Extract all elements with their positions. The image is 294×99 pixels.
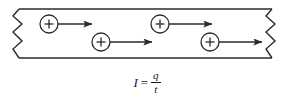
charge-carrier-3 xyxy=(151,15,212,33)
right-break-zigzag-icon xyxy=(266,9,275,58)
charge-carrier-1 xyxy=(40,15,92,33)
left-break-zigzag-icon xyxy=(13,9,22,58)
equation-numerator: q xyxy=(151,70,161,82)
equation-denominator: t xyxy=(152,83,159,95)
current-equation: I = q t xyxy=(0,66,294,99)
current-diagram-figure: I = q t xyxy=(0,0,294,99)
equation-equals-sign: = xyxy=(141,76,148,89)
charge-carrier-4 xyxy=(201,33,262,51)
equation-expression: I = q t xyxy=(133,70,160,95)
conductor-diagram xyxy=(0,0,294,66)
equation-lhs: I xyxy=(133,76,137,89)
charge-carrier-2 xyxy=(92,33,152,51)
equation-fraction: q t xyxy=(151,70,161,95)
